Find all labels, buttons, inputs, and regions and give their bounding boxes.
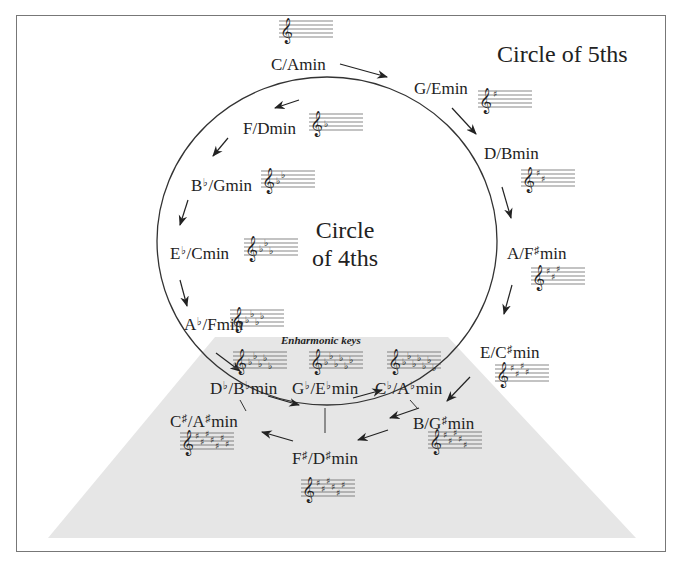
flat-icon: ♭ — [263, 353, 267, 363]
key-label-c: C/Amin — [271, 56, 326, 73]
key-label-bb: B♭/Gmin — [191, 177, 252, 194]
sharp-icon: ♯ — [448, 436, 452, 446]
sharp-icon: ♯ — [195, 431, 199, 441]
treble-clef-icon: 𝄞 — [310, 349, 323, 375]
key-label-ab: A♭/Fmin — [184, 316, 243, 333]
arrow-icon — [504, 285, 512, 314]
flat-icon: ♭ — [427, 355, 431, 365]
treble-clef-icon: 𝄞 — [302, 477, 315, 503]
key-signature-staff-eb: 𝄞♭♭♭ — [244, 236, 298, 262]
key-label-cb: C♭/A♭min — [375, 380, 442, 397]
flat-icon: ♭ — [268, 361, 272, 371]
flat-icon: ♭ — [339, 353, 343, 363]
enharmonic-region — [48, 337, 636, 538]
circle-of-fourths-title-line2: of 4ths — [300, 245, 390, 273]
flat-icon: ♭ — [281, 170, 285, 180]
flat-icon: ♭ — [260, 311, 264, 321]
key-label-cs: C♯/A♯min — [170, 413, 238, 430]
treble-clef-icon: 𝄞 — [310, 111, 323, 137]
sharp-icon: ♯ — [205, 429, 209, 439]
sharp-icon: ♯ — [551, 272, 555, 282]
sharp-icon: ♯ — [331, 482, 335, 492]
flat-icon: ♭ — [349, 355, 353, 365]
flat-icon: ♭ — [255, 317, 259, 327]
arrow-icon — [213, 138, 228, 156]
circle-diagram-graphics: 𝄞𝄞♯𝄞♯♯𝄞♯♯♯𝄞♯♯♯♯𝄞♯♯♯♯♯𝄞♯♯♯♯♯♯𝄞♯♯♯♯♯♯♯𝄞♭♭♭… — [0, 0, 681, 568]
treble-clef-icon: 𝄞 — [522, 167, 535, 193]
key-label-db: D♭/B♭min — [210, 380, 277, 397]
sharp-icon: ♯ — [316, 478, 320, 488]
key-label-g: G/Emin — [414, 80, 468, 97]
sharp-icon: ♯ — [546, 266, 550, 276]
treble-clef-icon: 𝄞 — [245, 236, 258, 262]
sharp-icon: ♯ — [215, 441, 219, 451]
flat-icon: ♭ — [324, 357, 328, 367]
flat-icon: ♭ — [432, 363, 436, 373]
sharp-icon: ♯ — [321, 484, 325, 494]
flat-icon: ♭ — [412, 359, 416, 369]
arrow-icon — [452, 108, 476, 134]
key-label-d: D/Bmin — [484, 145, 539, 162]
flat-icon: ♭ — [276, 176, 280, 186]
treble-clef-icon: 𝄞 — [532, 265, 545, 291]
sharp-icon: ♯ — [326, 476, 330, 486]
sharp-icon: ♯ — [541, 174, 545, 184]
flat-icon: ♭ — [402, 357, 406, 367]
sharp-icon: ♯ — [220, 433, 224, 443]
treble-clef-icon: 𝄞 — [388, 349, 401, 375]
sharp-icon: ♯ — [525, 367, 529, 377]
arrow-icon — [180, 200, 188, 225]
arrow-icon — [502, 187, 511, 218]
treble-clef-icon: 𝄞 — [181, 430, 194, 456]
flat-icon: ♭ — [248, 357, 252, 367]
flat-icon: ♭ — [324, 119, 328, 129]
arrow-icon — [275, 100, 299, 108]
flat-icon: ♭ — [407, 351, 411, 361]
arrow-icon — [340, 64, 387, 77]
key-signature-staff-c: 𝄞 — [279, 18, 333, 44]
sharp-icon: ♯ — [210, 435, 214, 445]
flat-icon: ♭ — [250, 309, 254, 319]
flat-icon: ♭ — [334, 359, 338, 369]
flat-icon: ♭ — [253, 351, 257, 361]
sharp-icon: ♯ — [493, 89, 497, 99]
flat-icon: ♭ — [259, 244, 263, 254]
key-label-b: B/G♯min — [413, 415, 474, 432]
flat-icon: ♭ — [269, 246, 273, 256]
flat-icon: ♭ — [344, 361, 348, 371]
circle-of-fifths-title: Circle of 5ths — [497, 41, 628, 67]
treble-clef-icon: 𝄞 — [234, 349, 247, 375]
sharp-icon: ♯ — [200, 437, 204, 447]
sharp-icon: ♯ — [336, 488, 340, 498]
sharp-icon: ♯ — [520, 361, 524, 371]
flat-icon: ♭ — [264, 238, 268, 248]
sharp-icon: ♯ — [341, 480, 345, 490]
key-label-gb: G♭/E♭min — [292, 380, 358, 397]
key-signature-staff-a: 𝄞♯♯♯ — [531, 264, 585, 291]
sharp-icon: ♯ — [458, 434, 462, 444]
key-label-fs: F♯/D♯min — [292, 450, 358, 467]
circle-of-fourths-title-line1: Circle — [300, 217, 390, 245]
key-signature-staff-f: 𝄞♭ — [309, 111, 363, 137]
sharp-icon: ♯ — [536, 168, 540, 178]
flat-icon: ♭ — [245, 315, 249, 325]
arrow-icon — [180, 280, 187, 306]
circle-of-fourths-title: Circle of 4ths — [300, 217, 390, 272]
treble-clef-icon: 𝄞 — [262, 168, 275, 194]
key-label-eb: E♭/Cmin — [170, 245, 229, 262]
flat-icon: ♭ — [329, 351, 333, 361]
flat-icon: ♭ — [417, 353, 421, 363]
key-signature-staff-d: 𝄞♯♯ — [521, 167, 575, 193]
sharp-icon: ♯ — [225, 439, 229, 449]
flat-icon: ♭ — [258, 359, 262, 369]
flat-icon: ♭ — [422, 361, 426, 371]
key-label-e: E/C♯min — [480, 344, 539, 361]
enharmonic-keys-label: Enharmonic keys — [281, 334, 361, 346]
sharp-icon: ♯ — [515, 369, 519, 379]
sharp-icon: ♯ — [463, 440, 467, 450]
sharp-icon: ♯ — [510, 363, 514, 373]
treble-clef-icon: 𝄞 — [280, 18, 293, 44]
key-signature-staff-bb: 𝄞♭♭ — [261, 168, 315, 194]
key-label-f: F/Dmin — [243, 120, 296, 137]
treble-clef-icon: 𝄞 — [496, 362, 509, 388]
